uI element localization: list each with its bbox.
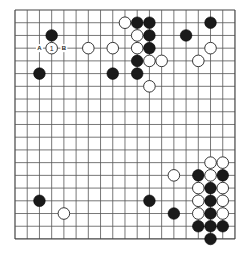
move-number-label: 1 (50, 45, 54, 52)
black-stone-icon (205, 208, 217, 220)
svg-text:B: B (62, 45, 67, 51)
white-stone-icon (193, 195, 205, 207)
black-stone-icon (107, 68, 119, 80)
black-stone-icon (193, 170, 205, 182)
black-stone-icon (46, 30, 58, 42)
go-board-grid[interactable]: AB 1 (0, 0, 249, 258)
white-stone-icon (58, 208, 70, 220)
black-stone-icon (131, 17, 143, 29)
black-stone-icon (144, 30, 156, 42)
go-board[interactable]: AB 1 (0, 0, 249, 258)
black-stone-icon (34, 68, 46, 80)
point-label-a: A (36, 44, 43, 52)
black-stone-icon (193, 220, 205, 232)
black-stone-icon (205, 182, 217, 194)
black-stone-icon (168, 208, 180, 220)
white-stone-icon (205, 170, 217, 182)
black-stone-icon (131, 68, 143, 80)
black-stone-icon (205, 195, 217, 207)
black-stone-icon (144, 42, 156, 54)
black-stone-icon (144, 195, 156, 207)
black-stone-icon (34, 195, 46, 207)
black-stone-icon (217, 220, 229, 232)
white-stone-icon (144, 81, 156, 93)
black-stone-icon (205, 220, 217, 232)
white-stone-icon (156, 55, 168, 67)
white-stone-icon (119, 17, 131, 29)
black-stone-icon (217, 170, 229, 182)
black-stone-icon (205, 17, 217, 29)
white-stone-icon (193, 55, 205, 67)
white-stone-icon (217, 182, 229, 194)
white-stone-icon (144, 55, 156, 67)
white-stone-icon (83, 42, 95, 54)
white-stone-icon (107, 42, 119, 54)
white-stone-icon (131, 42, 143, 54)
white-stone-icon: 1 (46, 42, 58, 54)
black-stone-icon (131, 55, 143, 67)
black-stone-icon (180, 30, 192, 42)
point-label-b: B (60, 44, 67, 52)
black-stone-icon (144, 17, 156, 29)
white-stone-icon (217, 208, 229, 220)
black-stone-icon (205, 233, 217, 245)
white-stone-icon (168, 170, 180, 182)
white-stone-icon (217, 157, 229, 169)
white-stone-icon (205, 157, 217, 169)
white-stone-icon (193, 182, 205, 194)
white-stone-icon (193, 208, 205, 220)
white-stone-icon (205, 42, 217, 54)
white-stone-icon (131, 30, 143, 42)
white-stone-icon (217, 195, 229, 207)
svg-text:A: A (37, 45, 42, 51)
